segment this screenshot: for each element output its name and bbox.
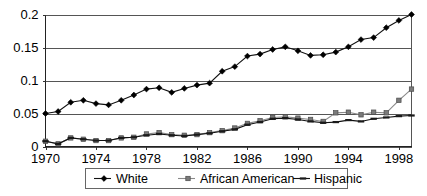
data-point-0-11 <box>181 86 187 92</box>
data-point-1-23 <box>334 111 338 115</box>
data-point-2-20 <box>295 118 301 120</box>
data-point-2-16 <box>244 124 250 126</box>
data-point-1-29 <box>409 87 413 91</box>
series-line-0 <box>46 15 412 114</box>
legend-label-0: White <box>116 172 148 186</box>
data-point-0-8 <box>144 86 150 92</box>
y-tick-label-3: 0.15 <box>13 40 38 55</box>
data-point-1-27 <box>384 111 388 115</box>
y-tick-label-4: 0.2 <box>20 7 38 22</box>
data-point-2-3 <box>80 138 86 140</box>
data-point-2-4 <box>93 139 99 141</box>
data-point-2-0 <box>42 140 48 142</box>
data-point-0-21 <box>308 53 314 59</box>
data-point-2-19 <box>282 117 288 119</box>
x-tick-label-4: 1986 <box>233 151 262 166</box>
data-point-0-6 <box>118 97 124 103</box>
data-point-2-8 <box>143 134 149 136</box>
series-line-1 <box>46 89 412 144</box>
data-point-0-7 <box>131 92 137 98</box>
data-point-1-26 <box>371 110 375 114</box>
data-point-2-14 <box>219 130 225 132</box>
legend-label-1: African American <box>200 172 295 186</box>
data-point-2-29 <box>408 114 414 116</box>
chart-legend: WhiteAfrican AmericanHispanic <box>86 169 362 189</box>
data-point-0-17 <box>257 51 263 57</box>
data-point-0-12 <box>194 82 200 88</box>
data-point-0-23 <box>333 49 339 55</box>
data-series-group <box>42 12 414 146</box>
data-point-0-9 <box>156 85 162 91</box>
x-axis-tick-labels: 19701974197819821986199019941998 <box>31 147 413 166</box>
data-point-0-25 <box>358 37 364 43</box>
series-african-american <box>43 87 413 146</box>
data-point-2-2 <box>68 137 74 139</box>
data-point-0-28 <box>396 18 402 24</box>
data-point-0-5 <box>106 102 112 108</box>
x-tick-label-5: 1990 <box>283 151 312 166</box>
data-point-2-11 <box>181 135 187 137</box>
x-tick-label-2: 1978 <box>132 151 161 166</box>
plot-frame <box>46 15 412 147</box>
x-tick-label-7: 1998 <box>384 151 413 166</box>
data-point-2-12 <box>194 134 200 136</box>
data-point-2-25 <box>358 120 364 122</box>
line-chart-figure: 00.050.10.150.2 197019741978198219861990… <box>0 0 427 196</box>
data-point-2-9 <box>156 133 162 135</box>
x-tick-label-6: 1994 <box>334 151 363 166</box>
data-point-0-18 <box>270 47 276 53</box>
data-point-0-22 <box>320 52 326 58</box>
data-point-0-10 <box>169 89 175 95</box>
data-point-2-27 <box>383 116 389 118</box>
x-tick-label-1: 1974 <box>82 151 111 166</box>
data-point-1-24 <box>346 110 350 114</box>
data-point-0-0 <box>43 111 49 117</box>
legend-label-2: Hispanic <box>314 172 362 186</box>
data-point-2-26 <box>370 118 376 120</box>
data-point-2-17 <box>257 121 263 123</box>
data-point-1-28 <box>397 98 401 102</box>
x-tick-label-0: 1970 <box>31 151 60 166</box>
data-point-0-29 <box>409 12 415 18</box>
data-point-2-5 <box>105 139 111 141</box>
data-point-2-21 <box>307 120 313 122</box>
y-tick-label-2: 0.1 <box>20 73 38 88</box>
data-point-2-18 <box>269 118 275 120</box>
y-axis-tick-labels: 00.050.10.150.2 <box>13 7 45 154</box>
data-point-2-24 <box>345 119 351 121</box>
legend-marker-dash-icon <box>300 177 306 179</box>
data-point-1-25 <box>359 113 363 117</box>
data-point-2-13 <box>206 132 212 134</box>
data-point-2-10 <box>169 134 175 136</box>
chart-canvas: 00.050.10.150.2 197019741978198219861990… <box>0 0 427 196</box>
data-point-2-28 <box>396 115 402 117</box>
y-tick-label-1: 0.05 <box>13 106 38 121</box>
data-point-2-6 <box>118 137 124 139</box>
data-point-2-15 <box>232 128 238 130</box>
x-tick-label-3: 1982 <box>182 151 211 166</box>
data-point-0-3 <box>80 97 86 103</box>
data-point-2-1 <box>55 143 61 145</box>
data-point-2-7 <box>131 136 137 138</box>
data-point-2-23 <box>333 121 339 123</box>
gridlines <box>46 16 412 148</box>
legend-marker-square-icon <box>186 176 190 180</box>
data-point-0-4 <box>93 101 99 107</box>
series-white <box>43 12 415 117</box>
data-point-2-22 <box>320 122 326 124</box>
